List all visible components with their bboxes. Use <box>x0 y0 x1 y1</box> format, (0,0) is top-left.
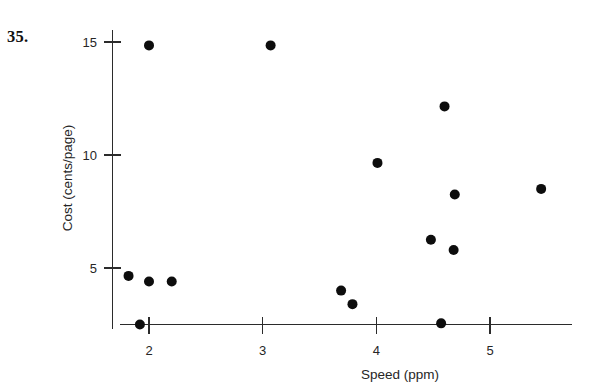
data-point <box>372 158 382 168</box>
data-point <box>347 299 357 309</box>
x-axis-tick-label: 3 <box>259 343 266 358</box>
x-axis-tick-label: 2 <box>145 343 152 358</box>
y-axis-tick-label: 15 <box>83 35 97 50</box>
data-point <box>426 235 436 245</box>
data-point <box>440 101 450 111</box>
y-axis-group: 51015 Cost (cents/page) <box>60 30 121 329</box>
data-point-series <box>124 40 547 329</box>
data-point <box>144 40 154 50</box>
y-axis-title: Cost (cents/page) <box>60 125 75 232</box>
data-point <box>449 245 459 255</box>
y-axis-tick-label: 10 <box>83 148 97 163</box>
x-axis-group: 2345 Speed (ppm) <box>120 317 572 382</box>
x-axis-tick-labels: 2345 <box>145 343 493 358</box>
data-point <box>135 320 145 330</box>
data-point <box>336 286 346 296</box>
data-point <box>266 40 276 50</box>
scatter-plot-canvas: 51015 Cost (cents/page) 2345 Speed (ppm) <box>0 0 600 390</box>
x-axis-title: Speed (ppm) <box>361 367 439 382</box>
y-axis-tick-label: 5 <box>90 261 97 276</box>
data-point <box>536 184 546 194</box>
data-point <box>450 190 460 200</box>
scatter-plot-figure: 35. 51015 Cost (cents/page) 2345 Speed (… <box>0 0 600 390</box>
data-point <box>436 318 446 328</box>
y-axis-tick-labels: 51015 <box>83 35 97 276</box>
data-point <box>124 271 134 281</box>
x-axis-tick-label: 4 <box>373 343 380 358</box>
x-axis-tick-label: 5 <box>486 343 493 358</box>
data-point <box>144 277 154 287</box>
data-point <box>167 277 177 287</box>
